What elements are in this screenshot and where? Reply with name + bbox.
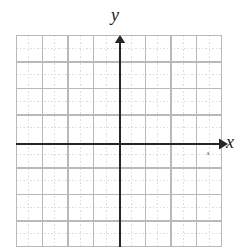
coordinate-plane-figure: y x: [0, 0, 238, 251]
y-axis-arrowhead: [115, 35, 125, 43]
y-axis: [115, 35, 125, 247]
x-axis-label: x: [226, 133, 234, 151]
coordinate-plane-canvas: [0, 0, 238, 251]
print-speck-artifact: [207, 152, 209, 154]
y-axis-label: y: [111, 6, 119, 24]
x-axis: [16, 139, 228, 150]
